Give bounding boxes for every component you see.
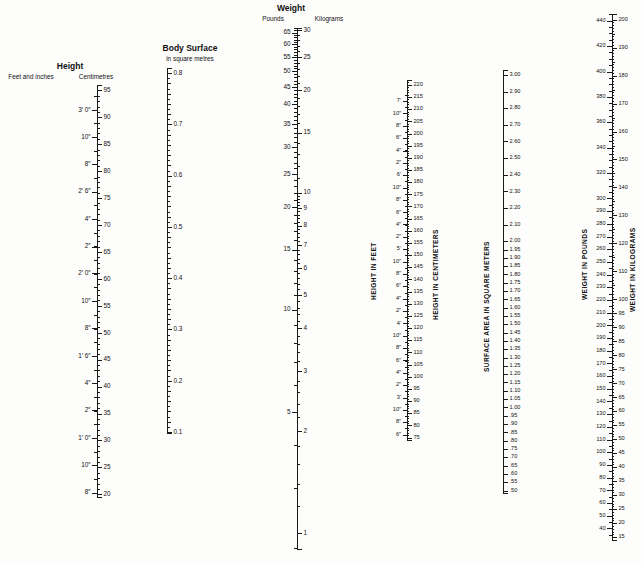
tick-major bbox=[403, 435, 408, 436]
tick-major bbox=[612, 215, 617, 216]
tick-label: 95 bbox=[619, 311, 625, 317]
tick-label: .65 bbox=[510, 463, 518, 469]
tick-minor bbox=[294, 77, 297, 78]
tick-label: 85 bbox=[104, 141, 111, 147]
tick-minor bbox=[612, 182, 614, 183]
tick-minor bbox=[405, 428, 407, 429]
tick-label: 300 bbox=[584, 196, 606, 202]
tick-label: 15 bbox=[267, 246, 291, 252]
tick-label: 1.45 bbox=[510, 330, 521, 336]
tick-minor bbox=[612, 501, 614, 502]
tick-minor bbox=[405, 361, 407, 362]
tick-label: 0.5 bbox=[174, 224, 183, 230]
tick-minor bbox=[612, 78, 614, 79]
tick-major bbox=[167, 124, 172, 125]
tick-minor bbox=[612, 90, 615, 91]
tick-minor bbox=[612, 134, 614, 135]
tick-minor bbox=[97, 241, 100, 242]
tick-label: 2.10 bbox=[510, 222, 521, 228]
tick-minor bbox=[167, 242, 170, 243]
tick-minor bbox=[97, 257, 100, 258]
tick-minor bbox=[612, 308, 614, 309]
tick-label: 10″ bbox=[361, 407, 401, 413]
tick-minor bbox=[297, 154, 300, 155]
tick-major bbox=[407, 267, 412, 268]
tick-major bbox=[407, 425, 412, 426]
tick-minor bbox=[294, 215, 297, 216]
tick-minor bbox=[612, 39, 614, 40]
tick-label: 180 bbox=[619, 73, 628, 79]
tick-minor bbox=[612, 109, 614, 110]
tick-minor bbox=[407, 175, 409, 176]
tick-minor bbox=[609, 122, 612, 123]
tick-major bbox=[612, 495, 617, 496]
tick-minor bbox=[609, 351, 612, 352]
tick-major bbox=[503, 416, 508, 417]
tick-major bbox=[407, 365, 412, 366]
tick-minor bbox=[97, 370, 100, 371]
tick-minor bbox=[612, 137, 614, 138]
tick-minor bbox=[167, 355, 170, 356]
tick-major bbox=[503, 399, 508, 400]
tick-label: 6′ bbox=[361, 172, 401, 178]
tick-minor bbox=[297, 229, 300, 230]
tick-minor bbox=[407, 199, 409, 200]
tick-minor bbox=[97, 214, 100, 215]
tick-label: .85 bbox=[510, 430, 518, 436]
tick-minor bbox=[167, 165, 171, 166]
tick-minor bbox=[297, 404, 300, 405]
tick-minor bbox=[609, 357, 612, 358]
body-surface-axis-line bbox=[167, 68, 168, 433]
tick-label: 35 bbox=[619, 478, 625, 484]
tick-minor bbox=[609, 465, 612, 466]
tick-label: 1.20 bbox=[510, 371, 521, 377]
infant-weight-axis-top-cap bbox=[297, 28, 302, 29]
tick-minor bbox=[609, 262, 612, 263]
tick-major bbox=[167, 278, 172, 279]
tick-minor bbox=[297, 46, 300, 47]
tick-label: 20 bbox=[619, 520, 625, 526]
tick-major bbox=[403, 398, 408, 399]
tick-minor bbox=[407, 294, 409, 295]
tick-label: 2″ bbox=[361, 308, 401, 314]
tick-major bbox=[503, 266, 508, 267]
tick-minor bbox=[407, 272, 409, 273]
tick-minor bbox=[294, 147, 297, 148]
tick-minor bbox=[407, 143, 409, 144]
tick-minor bbox=[297, 417, 300, 418]
tick-minor bbox=[612, 512, 614, 513]
tick-major bbox=[92, 164, 97, 165]
tick-minor bbox=[612, 311, 614, 312]
tick-minor bbox=[609, 59, 612, 60]
tick-minor bbox=[297, 361, 300, 362]
tick-minor bbox=[167, 365, 170, 366]
tick-minor bbox=[407, 248, 409, 249]
tick-label: 0.8 bbox=[174, 70, 183, 76]
tick-label: 65 bbox=[267, 29, 291, 35]
tick-minor bbox=[294, 362, 297, 363]
tick-minor bbox=[167, 135, 171, 136]
tick-major bbox=[403, 237, 408, 238]
tick-minor bbox=[407, 126, 409, 127]
tick-minor bbox=[297, 30, 300, 31]
tick-minor bbox=[97, 446, 100, 447]
tick-major bbox=[612, 243, 617, 244]
tick-label: 30 bbox=[619, 492, 625, 498]
height-feet-cm-axis-bottom-cap bbox=[407, 440, 412, 441]
tick-label: 100 bbox=[584, 449, 606, 455]
tick-minor bbox=[612, 422, 614, 423]
tick-minor bbox=[612, 162, 614, 163]
tick-minor bbox=[297, 321, 300, 322]
tick-minor bbox=[612, 213, 614, 214]
tick-minor bbox=[97, 489, 100, 490]
tick-minor bbox=[294, 488, 297, 489]
tick-minor bbox=[612, 165, 614, 166]
tick-label: 70 bbox=[104, 222, 111, 228]
tick-minor bbox=[97, 247, 100, 248]
tick-label: 55 bbox=[267, 54, 291, 60]
tick-minor bbox=[297, 308, 300, 309]
tick-minor bbox=[609, 414, 612, 415]
tick-major bbox=[503, 407, 508, 408]
tick-major bbox=[97, 440, 102, 441]
tick-minor bbox=[407, 355, 409, 356]
